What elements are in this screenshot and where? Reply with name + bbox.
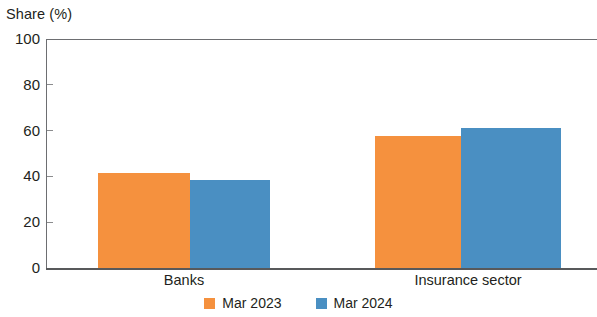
legend-item-mar-2023[interactable]: Mar 2023 (204, 295, 281, 311)
y-tick-label: 100 (4, 31, 40, 46)
bar-insurance-sector-mar-2024 (461, 128, 561, 268)
bar-banks-mar-2024 (190, 180, 270, 268)
legend-label: Mar 2023 (222, 295, 281, 311)
y-tick-label: 60 (4, 123, 40, 138)
bar-banks-mar-2023 (98, 173, 190, 268)
legend-item-mar-2024[interactable]: Mar 2024 (316, 295, 393, 311)
legend-swatch-icon (316, 298, 327, 309)
x-axis-label-insurance-sector: Insurance sector (358, 272, 578, 288)
y-axis-title: Share (%) (6, 6, 72, 22)
plot-area (46, 39, 597, 268)
y-tick-label: 40 (4, 168, 40, 183)
y-tick-label: 0 (4, 260, 40, 275)
legend-label: Mar 2024 (334, 295, 393, 311)
chart-legend: Mar 2023Mar 2024 (0, 295, 597, 311)
x-axis-baseline (46, 268, 597, 270)
y-tick-label: 80 (4, 77, 40, 92)
bar-insurance-sector-mar-2023 (375, 136, 461, 268)
x-axis-label-banks: Banks (74, 272, 294, 288)
bar-chart: Share (%) 020406080100 BanksInsurance se… (0, 0, 597, 317)
legend-swatch-icon (204, 298, 215, 309)
y-tick-label: 20 (4, 214, 40, 229)
